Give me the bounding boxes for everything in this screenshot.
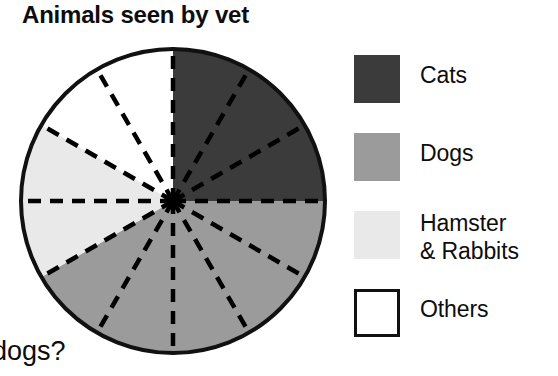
- legend-label-cats: Cats: [420, 52, 467, 89]
- legend-label-dogs: Dogs: [420, 130, 473, 167]
- pie-slice-cats[interactable]: [173, 49, 325, 201]
- pie-chart-screenshot: Animals seen by vet: [0, 0, 558, 376]
- legend-swatch-others: [354, 289, 400, 337]
- legend-swatch-hamster-rabbits: [354, 211, 400, 259]
- legend-item-dogs[interactable]: Dogs: [354, 130, 558, 194]
- legend-swatch-cats: [354, 55, 400, 103]
- legend: Cats Dogs Hamster & Rabbits Others: [354, 52, 558, 352]
- page-title: Animals seen by vet: [22, 1, 249, 29]
- pie-chart-svg: [15, 41, 335, 361]
- pie-chart: [15, 41, 335, 361]
- legend-item-cats[interactable]: Cats: [354, 52, 558, 116]
- legend-item-others[interactable]: Others: [354, 286, 558, 350]
- bottom-question-caption: dogs?: [0, 336, 66, 376]
- legend-item-hamster-rabbits[interactable]: Hamster & Rabbits: [354, 208, 558, 272]
- pie-center-hub: [166, 194, 180, 208]
- legend-swatch-dogs: [354, 133, 400, 181]
- legend-label-others: Others: [420, 286, 488, 323]
- legend-label-hamster-rabbits: Hamster & Rabbits: [420, 208, 519, 265]
